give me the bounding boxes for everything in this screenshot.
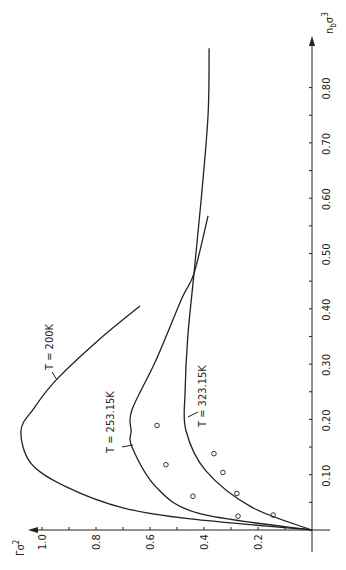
y-tick-labels: 0.20.40.60.81.0: [36, 534, 265, 550]
curve-label-253k: T = 253.15K: [104, 391, 117, 454]
data-points: [155, 423, 276, 518]
data-point-marker: [164, 462, 169, 467]
y-tick-label: 0.4: [198, 534, 211, 550]
x-axis-arrow-icon: [309, 36, 315, 46]
y-tick-label: 0.8: [90, 534, 103, 550]
x-tick-label: 0.60: [320, 188, 333, 210]
svg-text:nbσ3: nbσ3: [321, 12, 338, 34]
x-tick-labels: 0.100.200.300.400.500.600.700.80: [320, 78, 333, 487]
svg-text:Γσ2: Γσ2: [12, 540, 27, 556]
curve-25315: [130, 216, 312, 530]
curve-label-323k: T = 323.15K: [196, 365, 209, 428]
data-point-marker: [235, 491, 240, 496]
curve-label-200k: T = 200K: [43, 323, 56, 371]
y-tick-label: 0.6: [144, 534, 157, 550]
x-tick-label: 0.20: [320, 409, 333, 431]
data-point-marker: [212, 451, 217, 456]
x-tick-label: 0.80: [320, 78, 333, 100]
x-axis-title: nbσ3: [321, 12, 338, 34]
label-253k: T = 253.15K: [104, 391, 133, 454]
adsorption-chart: 0.100.200.300.400.500.600.700.80 0.20.40…: [0, 0, 346, 570]
x-tick-label: 0.30: [320, 354, 333, 376]
y-tick-label: 0.2: [252, 534, 265, 550]
x-tick-label: 0.70: [320, 133, 333, 155]
data-point-marker: [191, 494, 196, 499]
y-tick-label: 1.0: [36, 534, 49, 550]
data-point-marker: [155, 423, 160, 428]
y-axis-title: Γσ2: [12, 540, 27, 556]
curves: [21, 48, 312, 530]
label-200k: T = 200K: [43, 323, 57, 380]
axes: [28, 36, 330, 552]
data-point-marker: [236, 514, 241, 519]
x-tick-label: 0.50: [320, 243, 333, 265]
y-axis-arrow-icon: [28, 527, 38, 533]
x-tick-label: 0.40: [320, 299, 333, 321]
x-tick-label: 0.10: [320, 465, 333, 487]
data-point-marker: [221, 470, 226, 475]
curve-32315: [184, 48, 312, 530]
label-323k: T = 323.15K: [188, 365, 209, 428]
